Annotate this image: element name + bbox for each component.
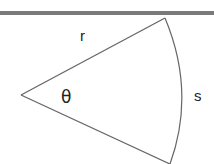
radius-label: r	[80, 27, 85, 44]
radius-line-top	[21, 18, 165, 95]
radius-line-bottom	[21, 95, 170, 164]
sector-diagram: r θ s	[0, 0, 214, 164]
arc-s	[165, 18, 182, 164]
angle-label: θ	[61, 87, 71, 107]
arc-length-label: s	[194, 87, 202, 104]
